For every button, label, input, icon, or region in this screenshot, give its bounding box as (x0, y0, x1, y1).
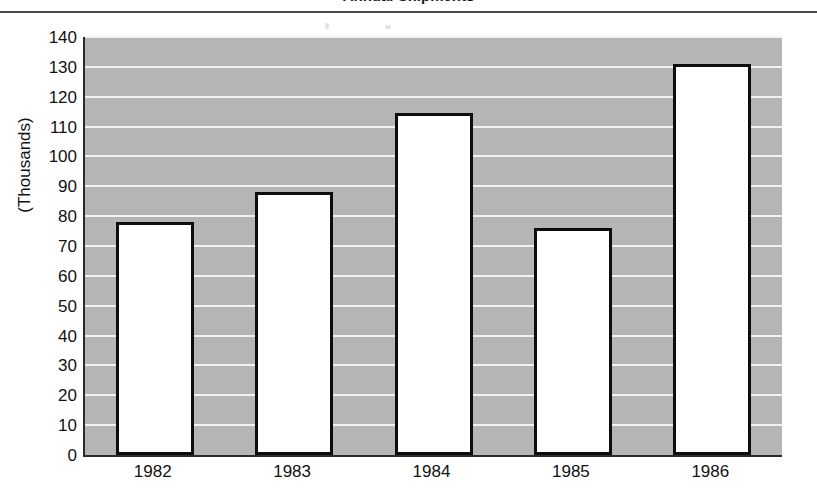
y-axis-tick-label: 30 (30, 357, 77, 374)
bar (255, 192, 333, 455)
x-axis-tick-label: 1984 (413, 462, 451, 482)
y-axis-tick-label: 120 (30, 88, 77, 105)
y-axis-tick-label: 50 (30, 297, 77, 314)
y-axis-tick-label: 60 (30, 267, 77, 284)
x-axis-tick-label: 1983 (273, 462, 311, 482)
y-axis-tick-label: 40 (30, 327, 77, 344)
bar-series (85, 37, 782, 455)
x-axis-tick-label: 1982 (134, 462, 172, 482)
y-axis-tick-label: 140 (30, 29, 77, 46)
y-axis-tick-label: 10 (30, 417, 77, 434)
header-divider (0, 11, 817, 13)
x-axis-tick-label: 1985 (552, 462, 590, 482)
bar (395, 113, 473, 455)
y-axis-tick-label: 130 (30, 58, 77, 75)
y-axis-tick-label: 0 (30, 447, 77, 464)
y-axis-tick-label: 70 (30, 238, 77, 255)
bar (116, 222, 194, 455)
chart-figure: Annual Shipments (Thousands) 14013012011… (0, 0, 817, 503)
bar (534, 228, 612, 455)
y-axis-tick-label: 100 (30, 148, 77, 165)
chart-title-clipped: Annual Shipments (0, 0, 817, 5)
y-axis-tick-label: 20 (30, 387, 77, 404)
y-axis-tick-labels: 1401301201101009080706050403020100 (30, 37, 77, 455)
y-axis-tick-label: 110 (30, 118, 77, 135)
x-axis-tick-labels: 19821983198419851986 (83, 462, 780, 492)
bar (673, 64, 751, 455)
y-axis-tick-label: 80 (30, 208, 77, 225)
scan-artifact (325, 23, 329, 29)
x-axis-tick-label: 1986 (691, 462, 729, 482)
scan-artifact (385, 25, 391, 29)
plot-area (83, 37, 782, 457)
y-axis-tick-label: 90 (30, 178, 77, 195)
